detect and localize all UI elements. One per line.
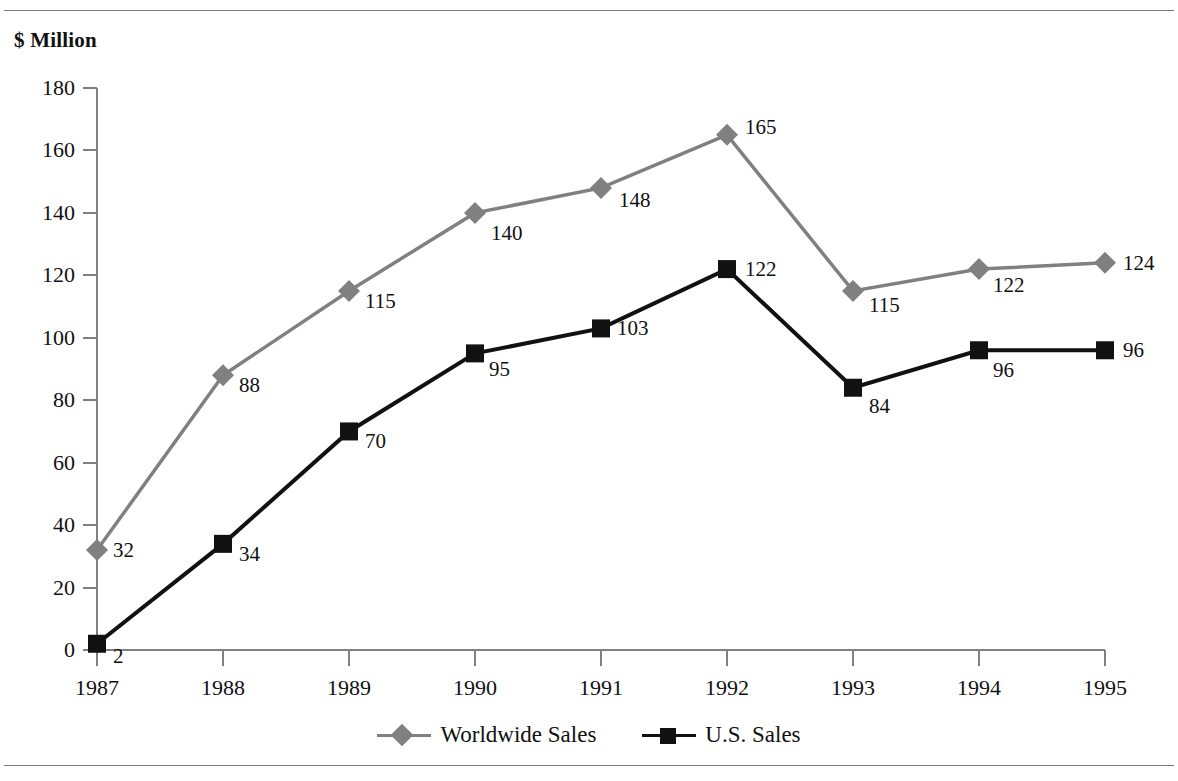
data-point-value-label: 96 xyxy=(1123,338,1144,363)
data-point-square-marker xyxy=(1096,341,1114,359)
data-point-value-label: 34 xyxy=(239,542,260,567)
chart-figure: $ Million 020406080100120140160180 19871… xyxy=(0,0,1178,781)
x-axis-tick-label: 1991 xyxy=(579,675,623,701)
x-axis-tick-label: 1994 xyxy=(957,675,1001,701)
x-axis-tick-label: 1989 xyxy=(327,675,371,701)
data-point-value-label: 2 xyxy=(113,644,124,669)
data-point-value-label: 88 xyxy=(239,373,260,398)
data-point-value-label: 95 xyxy=(489,357,510,382)
legend-label: Worldwide Sales xyxy=(440,722,596,748)
diamond-marker-icon xyxy=(377,724,431,746)
data-point-square-marker xyxy=(592,319,610,337)
y-axis-tick-label: 40 xyxy=(0,512,75,538)
legend-entry[interactable]: U.S. Sales xyxy=(642,722,800,748)
data-point-value-label: 84 xyxy=(869,394,890,419)
data-point-value-label: 122 xyxy=(745,257,777,282)
data-point-diamond-marker xyxy=(338,280,360,302)
y-axis-tick-label: 140 xyxy=(0,200,75,226)
data-point-value-label: 115 xyxy=(869,293,900,318)
data-point-diamond-marker xyxy=(464,202,486,224)
data-point-square-marker xyxy=(466,344,484,362)
plot-area xyxy=(0,0,1178,781)
data-point-square-marker xyxy=(718,260,736,278)
y-axis-tick-label: 0 xyxy=(0,637,75,663)
legend-entry[interactable]: Worldwide Sales xyxy=(377,722,596,748)
data-point-value-label: 115 xyxy=(365,289,396,314)
x-axis-tick-label: 1988 xyxy=(201,675,245,701)
data-point-value-label: 103 xyxy=(617,316,649,341)
x-axis-tick-label: 1993 xyxy=(831,675,875,701)
legend-label: U.S. Sales xyxy=(705,722,800,748)
x-axis-tick-label: 1995 xyxy=(1083,675,1127,701)
data-point-square-marker xyxy=(970,341,988,359)
y-axis-tick-label: 60 xyxy=(0,450,75,476)
y-axis-tick-label: 20 xyxy=(0,575,75,601)
data-point-diamond-marker xyxy=(968,258,990,280)
data-point-value-label: 148 xyxy=(619,188,651,213)
legend-diamond-shape xyxy=(391,724,414,747)
data-point-square-marker xyxy=(340,422,358,440)
data-point-square-marker xyxy=(844,379,862,397)
x-axis-tick-label: 1990 xyxy=(453,675,497,701)
data-point-value-label: 124 xyxy=(1123,251,1155,276)
data-point-value-label: 96 xyxy=(993,358,1014,383)
data-point-square-marker xyxy=(214,535,232,553)
data-point-value-label: 165 xyxy=(745,115,777,140)
axis-group xyxy=(83,88,1105,666)
y-axis-tick-label: 120 xyxy=(0,262,75,288)
x-axis-tick-label: 1992 xyxy=(705,675,749,701)
data-point-diamond-marker xyxy=(1094,252,1116,274)
x-axis-tick-label: 1987 xyxy=(75,675,119,701)
y-axis-tick-label: 160 xyxy=(0,137,75,163)
data-point-diamond-marker xyxy=(590,177,612,199)
data-point-value-label: 140 xyxy=(491,221,523,246)
legend-square-shape xyxy=(660,728,676,744)
square-marker-icon xyxy=(642,724,696,746)
y-axis-tick-label: 80 xyxy=(0,387,75,413)
data-point-square-marker xyxy=(88,635,106,653)
chart-legend: Worldwide SalesU.S. Sales xyxy=(0,722,1178,748)
y-axis-tick-label: 100 xyxy=(0,325,75,351)
data-point-value-label: 32 xyxy=(113,538,134,563)
data-point-value-label: 122 xyxy=(993,273,1025,298)
y-axis-tick-label: 180 xyxy=(0,75,75,101)
data-point-value-label: 70 xyxy=(365,429,386,454)
